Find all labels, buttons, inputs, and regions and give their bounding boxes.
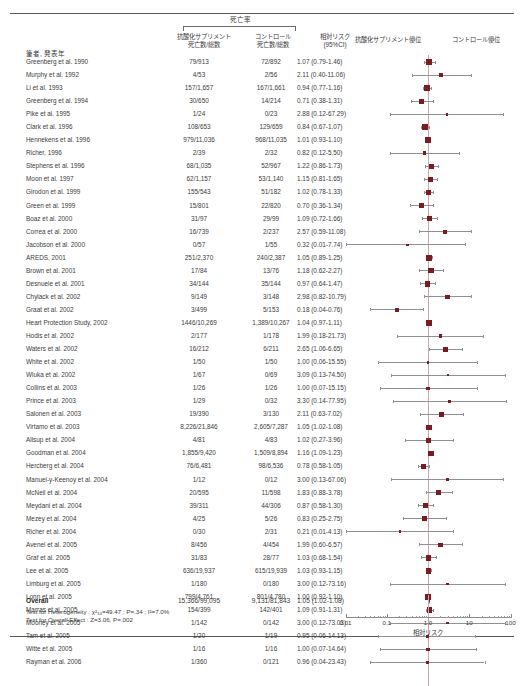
- study-author: Waters et al. 2002: [26, 342, 78, 355]
- study-control-value: 1,389/10,267: [240, 316, 302, 329]
- axis-tick-minor: [385, 616, 386, 618]
- study-supplement-value: 16/739: [160, 225, 238, 238]
- study-supplement-value: 4/25: [160, 512, 238, 525]
- study-supplement-value: 0/57: [160, 238, 238, 251]
- study-control-value: 2/237: [240, 225, 302, 238]
- study-supplement-value: 1,855/9,420: [160, 446, 238, 459]
- study-control-value: 1/178: [240, 329, 302, 342]
- study-author: Collins et al. 2003: [26, 381, 77, 394]
- table-row: Boaz et al. 200031/9729/991.09 (0.72-1.6…: [0, 212, 524, 225]
- study-rr-value: 0.87 (0.58-1.30): [297, 499, 371, 512]
- study-rr-value: 2.11 (0.40-11.06): [297, 68, 371, 81]
- axis-tick-minor: [412, 616, 413, 618]
- study-control-value: 4/454: [240, 538, 302, 551]
- study-supplement-value: 2/39: [160, 146, 238, 159]
- study-author: White et al. 2002: [26, 355, 74, 368]
- column-header-supplement-line2: 死亡数/総数: [168, 41, 240, 49]
- column-header-control-line1: コントロール: [243, 33, 303, 41]
- favors-supplement-label: 抗酸化サプリメント優位: [355, 36, 445, 44]
- study-rr-value: 0.21 (0.01-4.13): [297, 525, 371, 538]
- study-rr-value: 1.05 (1.02-1.08): [297, 420, 371, 433]
- study-control-value: 167/1,661: [240, 81, 302, 94]
- study-author: Heart Protection Study, 2002: [26, 316, 108, 329]
- column-header-control-line2: 死亡数/総数: [243, 41, 303, 49]
- overall-control-value: 9,131/81,843: [240, 594, 302, 607]
- study-supplement-value: 15/801: [160, 199, 238, 212]
- study-rr-value: 2.65 (1.06-6.65): [297, 342, 371, 355]
- study-rr-value: 0.78 (0.58-1.05): [297, 459, 371, 472]
- axis-tick-minor: [494, 616, 495, 618]
- axis-tick-minor: [504, 616, 505, 618]
- table-row: Clark et al. 1996108/653129/6590.84 (0.6…: [0, 120, 524, 133]
- study-supplement-value: 157/1,657: [160, 81, 238, 94]
- study-control-value: 3/148: [240, 290, 302, 303]
- study-supplement-value: 1/50: [160, 355, 238, 368]
- table-row: Manuel-y-Keenoy et al. 20041/120/123.00 …: [0, 473, 524, 486]
- study-supplement-value: 1/67: [160, 368, 238, 381]
- axis-tick-minor: [467, 616, 468, 618]
- study-rr-value: 1.09 (0.72-1.66): [297, 212, 371, 225]
- study-control-value: 51/182: [240, 185, 302, 198]
- axis-tick-minor: [378, 616, 379, 618]
- study-rr-value: 2.57 (0.59-11.08): [297, 225, 371, 238]
- column-header-supplement-line1: 抗酸化サプリメント: [168, 33, 240, 41]
- axis-tick-minor: [463, 616, 464, 618]
- axis-tick-minor: [509, 616, 510, 618]
- study-rr-value: 1.16 (1.09-1.23): [297, 446, 371, 459]
- study-control-value: 5/153: [240, 303, 302, 316]
- study-control-value: 0/121: [240, 655, 302, 668]
- study-author: Desnuele et al. 2001: [26, 277, 85, 290]
- study-rr-value: 2.88 (0.12-67.29): [297, 107, 371, 120]
- study-supplement-value: 20/595: [160, 486, 238, 499]
- study-control-value: 22/820: [240, 199, 302, 212]
- mortality-group-bracket: [183, 26, 296, 31]
- table-row: Meydani et al. 200439/31144/3060.87 (0.5…: [0, 499, 524, 512]
- study-control-value: 52/967: [240, 159, 302, 172]
- study-control-value: 3/130: [240, 407, 302, 420]
- study-control-value: 1,509/8,894: [240, 446, 302, 459]
- table-row: McNeil et al. 200420/59511/5981.83 (0.88…: [0, 486, 524, 499]
- axis-tick-minor: [419, 616, 420, 618]
- study-supplement-value: 16/212: [160, 342, 238, 355]
- study-rows: Greenberg et al. 199079/91372/8921.07 (0…: [0, 55, 524, 668]
- study-rr-value: 1.83 (0.88-3.78): [297, 486, 371, 499]
- axis-tick-minor: [460, 616, 461, 618]
- study-rr-value: 0.96 (0.04-23.43): [297, 655, 371, 668]
- table-row: Moon et al. 199762/1,15753/1,1401.15 (0.…: [0, 172, 524, 185]
- study-author: Boaz et al. 2000: [26, 212, 72, 225]
- study-supplement-value: 68/1,035: [160, 159, 238, 172]
- study-author: Richer et al. 2004: [26, 525, 76, 538]
- axis-tick-minor: [465, 616, 466, 618]
- table-row: Collins et al. 20031/261/261.00 (0.07-15…: [0, 381, 524, 394]
- study-rr-value: 1.99 (0.18-21.73): [297, 329, 371, 342]
- table-row: Murphy et al. 19924/532/562.11 (0.40-11.…: [0, 68, 524, 81]
- column-header-supplement: 抗酸化サプリメント 死亡数/総数: [168, 33, 240, 48]
- axis-tick-minor: [498, 616, 499, 618]
- study-rr-value: 3.09 (0.13-74.50): [297, 368, 371, 381]
- study-author: Meydani et al. 2004: [26, 499, 82, 512]
- study-rr-value: 0.18 (0.04-0.76): [297, 303, 371, 316]
- axis-tick-major: [511, 614, 512, 618]
- column-header-control: コントロール 死亡数/総数: [243, 33, 303, 48]
- overall-supplement-value: 15,366/99,095: [160, 594, 238, 607]
- study-supplement-value: 251/2,370: [160, 251, 238, 264]
- axis-tick-minor: [358, 616, 359, 618]
- study-rr-value: 1.03 (0.93-1.15): [297, 564, 371, 577]
- study-author: Graf et al. 2005: [26, 551, 70, 564]
- table-row: Avenel et al. 20058/4564/4541.99 (0.60-6…: [0, 538, 524, 551]
- study-supplement-value: 31/97: [160, 212, 238, 225]
- table-row: Prince et al. 20031/290/323.30 (0.14-77.…: [0, 394, 524, 407]
- study-supplement-value: 4/81: [160, 433, 238, 446]
- study-rr-value: 1.15 (0.81-1.65): [297, 172, 371, 185]
- study-control-value: 0/12: [240, 473, 302, 486]
- table-row: Hercberg et al. 200476/6,48198/6,5360.78…: [0, 459, 524, 472]
- table-row: Li et al. 1993157/1,657167/1,6610.94 (0.…: [0, 81, 524, 94]
- axis-tick-major: [346, 614, 347, 618]
- table-row: Allsup et al. 20044/814/831.02 (0.27-3.9…: [0, 433, 524, 446]
- table-row: Virtamo et al. 20038,226/21,8462,605/7,2…: [0, 420, 524, 433]
- study-supplement-value: 155/543: [160, 185, 238, 198]
- study-supplement-value: 19/390: [160, 407, 238, 420]
- study-author: Pike et al. 1995: [26, 107, 70, 120]
- study-control-value: 1/16: [240, 642, 302, 655]
- table-row: Jacobson et al. 20000/571/550.32 (0.01-7…: [0, 238, 524, 251]
